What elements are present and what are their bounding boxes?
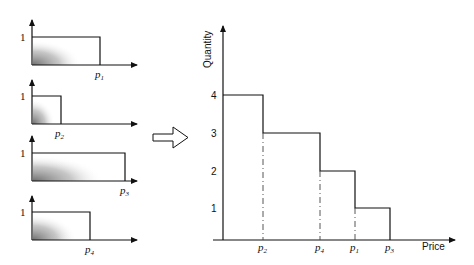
diagram-canvas: 1 p1 1 p2 1 p3 1 p4 Quantity Price <box>0 0 474 265</box>
demand-panel-p1: 1 p1 <box>20 20 137 82</box>
x-tick-p3: p3 <box>384 241 395 255</box>
demand-panel-p4: 1 p4 <box>20 196 137 257</box>
x-axis-label: Price <box>422 241 445 252</box>
x-tick-p2: p2 <box>257 241 268 255</box>
step-demand-curve <box>223 95 390 240</box>
y-tick-1: 1 <box>20 90 26 102</box>
hollow-right-arrow-icon <box>153 127 188 148</box>
demand-panel-p2: 1 p2 <box>20 80 137 141</box>
x-tick-p4: p4 <box>314 241 325 255</box>
price-label-p4: p4 <box>84 243 95 257</box>
shaded-area <box>33 155 103 181</box>
y-tick-3: 3 <box>211 128 217 139</box>
y-tick-1: 1 <box>20 31 26 43</box>
y-tick-4: 4 <box>211 90 217 101</box>
shaded-area <box>33 40 81 65</box>
shaded-area <box>33 214 77 240</box>
price-label-p2: p2 <box>54 127 65 141</box>
y-tick-1: 1 <box>20 147 26 159</box>
y-axis-label: Quantity <box>202 31 213 68</box>
price-label-p1: p1 <box>94 68 104 82</box>
y-tick-2: 2 <box>211 166 217 177</box>
y-tick-1: 1 <box>20 206 26 218</box>
aggregate-demand-chart: Quantity Price 4 3 2 1 p2 p4 p1 p3 <box>202 26 455 255</box>
demand-panel-p3: 1 p3 <box>20 136 137 198</box>
y-tick-1: 1 <box>211 203 217 214</box>
x-tick-p1: p1 <box>349 241 359 255</box>
shaded-area <box>33 99 55 124</box>
price-label-p3: p3 <box>119 184 130 198</box>
